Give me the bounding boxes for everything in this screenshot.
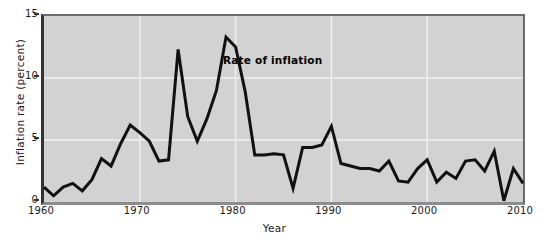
x-tick-label: 1980 <box>203 205 263 216</box>
inflation-rate-chart: 051015 Inflation rate (percent) Rate of … <box>0 0 549 238</box>
series-annotation-label: Rate of inflation <box>223 54 322 66</box>
x-axis-title: Year <box>0 222 549 234</box>
y-tick-mark <box>34 75 39 77</box>
y-tick-mark <box>34 199 39 201</box>
x-tick-label: 1990 <box>298 205 358 216</box>
plot-area <box>41 14 525 205</box>
x-tick-label: 1960 <box>11 205 71 216</box>
y-tick-mark <box>34 137 39 139</box>
x-tick-label: 2010 <box>490 205 549 216</box>
y-tick-mark <box>34 13 39 15</box>
inflation-line-series <box>44 16 523 202</box>
x-tick-label: 2000 <box>394 205 454 216</box>
y-axis-title: Inflation rate (percent) <box>14 12 26 192</box>
plot-inner <box>44 16 523 202</box>
x-tick-label: 1970 <box>107 205 167 216</box>
